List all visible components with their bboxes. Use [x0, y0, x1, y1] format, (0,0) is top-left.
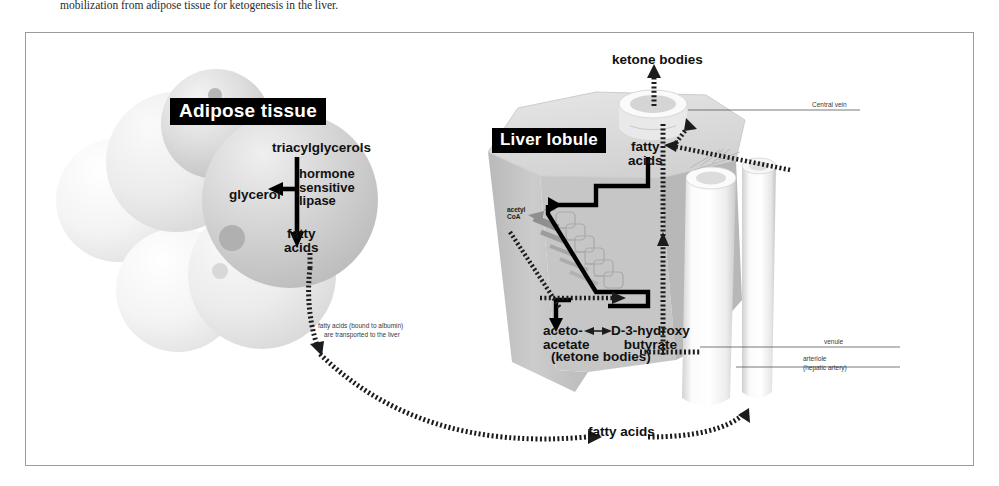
diagram-artwork	[0, 0, 999, 486]
fa-liver-line-2: acids	[628, 154, 663, 168]
label-arteriole: arteriole (hepatic artery)	[803, 354, 847, 373]
label-fatty-acids-bottom: fatty acids	[588, 425, 655, 439]
acetyl-coa-line-1: acetyl	[507, 206, 525, 213]
label-hormone-sensitive-lipase: hormone sensitive lipase	[299, 167, 355, 208]
label-triacylglycerols: triacylglycerols	[272, 141, 371, 155]
d3hb-line-1: D-3-hydroxy	[611, 324, 690, 338]
arteriole-line-2: (hepatic artery)	[803, 363, 847, 372]
label-fatty-acids-liver: fatty acids	[628, 140, 663, 168]
transport-note-line-2: are transported to the liver	[318, 330, 403, 339]
fa-adipose-line-1: fatty	[284, 227, 319, 241]
vessel-tubes	[682, 149, 776, 406]
label-acetoacetate: aceto- acetate	[543, 324, 590, 352]
acetyl-coa-line-2: CoA	[507, 213, 525, 220]
central-vein-opening	[619, 90, 687, 140]
hsl-line-1: hormone	[299, 167, 355, 181]
hsl-line-2: sensitive	[299, 181, 355, 195]
label-fatty-acids-adipose: fatty acids	[284, 227, 319, 255]
fa-adipose-line-2: acids	[284, 241, 319, 255]
transport-note-line-1: fatty acids (bound to albumin)	[318, 321, 403, 330]
label-acetyl-coa: acetyl CoA	[507, 206, 525, 220]
label-glycerol: glycerol	[229, 188, 281, 202]
label-ketone-bodies-parenthetical: (ketone bodies)	[551, 350, 651, 364]
fa-liver-line-1: fatty	[628, 140, 663, 154]
hsl-line-3: lipase	[299, 194, 355, 208]
label-ketone-bodies-output: ketone bodies	[612, 53, 703, 67]
adipose-tissue-banner: Adipose tissue	[170, 98, 326, 125]
label-d3-hydroxybutyrate: D-3-hydroxy butyrate	[611, 324, 690, 352]
liver-lobule-banner: Liver lobule	[492, 128, 606, 153]
arteriole-line-1: arteriole	[803, 354, 847, 363]
label-central-vein: Central vein	[812, 101, 847, 108]
acetoacetate-line-1: aceto-	[543, 324, 590, 338]
label-venule: venule	[824, 338, 843, 345]
label-transport-note: fatty acids (bound to albumin) are trans…	[318, 321, 403, 340]
